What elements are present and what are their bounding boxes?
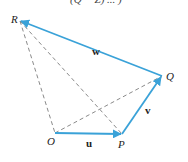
- vector-label-v: v: [145, 104, 151, 116]
- vector-diagram: (Q − Z) ... ) R Q O P u v w: [0, 0, 188, 162]
- vector-label-w: w: [92, 45, 100, 57]
- vector-v: [122, 77, 161, 134]
- vector-label-u: u: [86, 137, 92, 149]
- point-label-O: O: [47, 135, 55, 147]
- dashed-line-R-O: [20, 21, 55, 133]
- point-label-R: R: [10, 13, 18, 25]
- clipped-top-text: (Q − Z) ... ): [70, 0, 122, 6]
- point-label-P: P: [117, 138, 125, 150]
- point-label-Q: Q: [166, 70, 174, 82]
- dashed-line-R-P: [20, 21, 122, 134]
- vector-u: [55, 133, 121, 134]
